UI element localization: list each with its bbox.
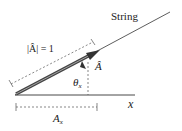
projection-arrowhead — [80, 61, 86, 69]
axis-label: x — [127, 97, 134, 111]
component-dimension — [16, 103, 97, 111]
string-label: String — [111, 10, 138, 22]
component-label: Ax — [52, 112, 64, 126]
vector-label: Â — [94, 60, 102, 72]
magnitude-label: |Â| = 1 — [27, 43, 54, 54]
angle-label: θx — [73, 76, 82, 90]
unit-vector-diagram: String |Â| = 1 Â θx x Ax — [0, 0, 182, 131]
unit-vector-arrow — [16, 50, 100, 94]
